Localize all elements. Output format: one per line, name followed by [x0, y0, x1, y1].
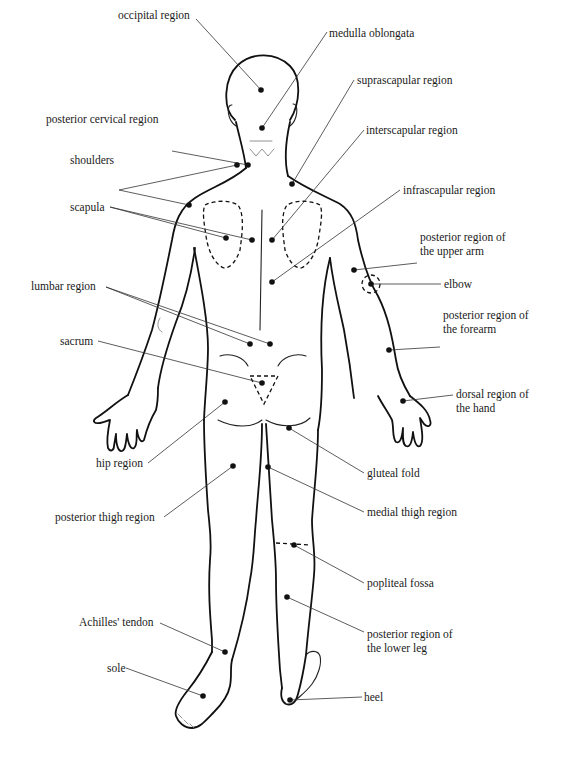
- label-posterior-thigh-region: posterior thigh region: [55, 510, 155, 524]
- label-line: suprascapular region: [357, 73, 452, 87]
- label-line: Achilles' tendon: [79, 615, 154, 629]
- marker-dot-posterior-region-of-lower-leg: [284, 594, 290, 600]
- label-hip-region: hip region: [96, 456, 143, 470]
- marker-dot-posterior-region-of-upper-arm: [351, 267, 357, 273]
- label-line: shoulders: [70, 153, 114, 167]
- marker-dot-scapula: [249, 237, 255, 243]
- marker-dot-shoulders: [234, 162, 240, 168]
- label-line: interscapular region: [366, 123, 458, 137]
- label-line: posterior region of: [420, 230, 506, 244]
- label-line: heel: [364, 690, 383, 704]
- leader-line-gluteal-fold: [289, 428, 364, 473]
- label-line: elbow: [444, 277, 472, 291]
- leader-line-shoulders: [119, 190, 189, 205]
- label-line: sole: [107, 661, 126, 675]
- marker-dot-scapula: [223, 235, 229, 241]
- label-heel: heel: [364, 690, 383, 704]
- leader-line-suprascapular-region: [292, 80, 354, 184]
- label-line: posterior thigh region: [55, 510, 155, 524]
- label-suprascapular-region: suprascapular region: [357, 73, 452, 87]
- label-line: infrascapular region: [403, 183, 495, 197]
- leader-line-popliteal-fossa: [294, 545, 364, 583]
- leader-line-achilles-tendon: [160, 623, 225, 652]
- label-sacrum: sacrum: [60, 334, 93, 348]
- label-gluteal-fold: gluteal fold: [367, 466, 420, 480]
- marker-dot-popliteal-fossa: [291, 542, 297, 548]
- label-posterior-cervical-region: posterior cervical region: [46, 112, 158, 126]
- label-line: the hand: [456, 401, 529, 415]
- label-line: popliteal fossa: [367, 576, 434, 590]
- marker-dot-lumbar-region: [247, 341, 253, 347]
- label-medulla-oblongata: medulla oblongata: [329, 26, 414, 40]
- label-line: the forearm: [443, 322, 529, 336]
- marker-dot-dorsal-region-of-hand: [400, 398, 406, 404]
- leader-line-lumbar-region: [106, 287, 250, 344]
- marker-dot-elbow: [368, 281, 374, 287]
- marker-dot-lumbar-region: [267, 341, 273, 347]
- label-line: the lower leg: [367, 641, 453, 655]
- marker-dot-sacrum: [259, 380, 265, 386]
- label-line: the upper arm: [420, 244, 506, 258]
- marker-dot-posterior-thigh-region: [230, 463, 236, 469]
- leader-line-lumbar-region: [106, 287, 270, 344]
- leader-line-infrascapular-region: [272, 190, 400, 282]
- marker-dot-hip-region: [222, 399, 228, 405]
- label-line: occipital region: [118, 8, 190, 22]
- leader-line-scapula: [110, 207, 226, 238]
- marker-dot-medulla-oblongata: [259, 125, 265, 131]
- label-posterior-region-of-forearm: posterior region ofthe forearm: [443, 308, 529, 336]
- label-line: posterior region of: [367, 627, 453, 641]
- marker-dot-interscapular-region: [269, 237, 275, 243]
- marker-dot-occipital-region: [258, 87, 264, 93]
- label-occipital-region: occipital region: [118, 8, 190, 22]
- marker-dot-shoulders: [186, 202, 192, 208]
- leader-line-posterior-thigh-region: [164, 466, 233, 517]
- label-posterior-region-of-lower-leg: posterior region ofthe lower leg: [367, 627, 453, 655]
- label-achilles-tendon: Achilles' tendon: [79, 615, 154, 629]
- label-scapula: scapula: [70, 200, 104, 214]
- label-line: medial thigh region: [367, 505, 457, 519]
- label-line: medulla oblongata: [329, 26, 414, 40]
- label-infrascapular-region: infrascapular region: [403, 183, 495, 197]
- label-line: sacrum: [60, 334, 93, 348]
- label-interscapular-region: interscapular region: [366, 123, 458, 137]
- label-dorsal-region-of-hand: dorsal region ofthe hand: [456, 387, 529, 415]
- label-line: posterior region of: [443, 308, 529, 322]
- label-line: scapula: [70, 200, 104, 214]
- leader-line-medulla-oblongata: [262, 32, 327, 128]
- region-markers: [186, 87, 406, 703]
- leader-line-posterior-region-of-lower-leg: [287, 597, 364, 632]
- marker-dot-medial-thigh-region: [265, 464, 271, 470]
- label-sole: sole: [107, 661, 126, 675]
- leader-line-sole: [126, 668, 203, 696]
- leader-line-shoulders: [119, 165, 237, 190]
- label-line: gluteal fold: [367, 466, 420, 480]
- marker-dot-posterior-cervical-region: [245, 162, 251, 168]
- leader-line-sacrum: [98, 341, 262, 383]
- label-lumbar-region: lumbar region: [31, 279, 96, 293]
- label-medial-thigh-region: medial thigh region: [367, 505, 457, 519]
- marker-dot-achilles-tendon: [222, 649, 228, 655]
- label-shoulders: shoulders: [70, 153, 114, 167]
- marker-dot-posterior-region-of-forearm: [386, 347, 392, 353]
- leader-line-posterior-region-of-forearm: [389, 347, 440, 350]
- label-line: hip region: [96, 456, 143, 470]
- leader-line-hip-region: [148, 402, 225, 463]
- marker-dot-suprascapular-region: [289, 181, 295, 187]
- label-elbow: elbow: [444, 277, 472, 291]
- label-popliteal-fossa: popliteal fossa: [367, 576, 434, 590]
- label-line: lumbar region: [31, 279, 96, 293]
- label-line: posterior cervical region: [46, 112, 158, 126]
- marker-dot-heel: [287, 697, 293, 703]
- marker-dot-infrascapular-region: [269, 279, 275, 285]
- marker-dot-gluteal-fold: [286, 425, 292, 431]
- leader-line-heel: [290, 697, 362, 700]
- label-line: dorsal region of: [456, 387, 529, 401]
- marker-dot-sole: [200, 693, 206, 699]
- label-posterior-region-of-upper-arm: posterior region ofthe upper arm: [420, 230, 506, 258]
